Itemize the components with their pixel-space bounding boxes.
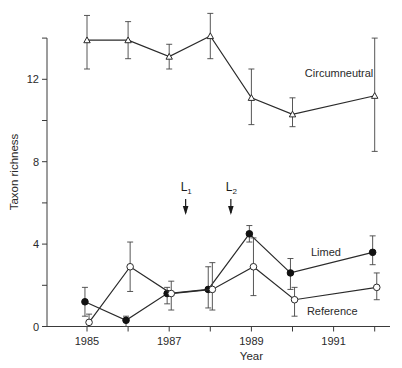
open-circle-marker: [168, 290, 175, 297]
y-tick-label: 4: [33, 238, 39, 250]
series-label-reference: Reference: [307, 305, 358, 317]
series-layer: CircumneutralLimedReference: [82, 13, 380, 326]
filled-circle-marker: [123, 317, 130, 324]
lime-arrow-1: L1: [181, 180, 193, 215]
filled-circle-marker: [287, 270, 294, 277]
down-arrow-icon: [228, 206, 234, 215]
chart-container: 048121985198719891991 CircumneutralLimed…: [0, 0, 402, 368]
down-arrow-icon: [183, 206, 189, 215]
x-tick-label: 1987: [157, 335, 181, 347]
x-tick-label: 1991: [321, 335, 345, 347]
x-tick-label: 1989: [239, 335, 263, 347]
line-chart: 048121985198719891991 CircumneutralLimed…: [0, 0, 402, 368]
x-tick-label: 1985: [75, 335, 99, 347]
y-axis-title: Taxon richness: [8, 133, 20, 210]
lime-arrow-2: L2: [226, 180, 238, 215]
filled-circle-marker: [246, 231, 253, 238]
series-label-limed: Limed: [311, 246, 341, 258]
arrow-label-subscript: 2: [233, 187, 238, 196]
annotation-layer: L1L2: [181, 180, 238, 215]
x-axis-title: Year: [240, 350, 263, 362]
filled-circle-marker: [82, 298, 89, 305]
open-circle-marker: [209, 286, 216, 293]
arrow-label-subscript: 1: [187, 187, 192, 196]
triangle-marker: [207, 33, 213, 39]
open-circle-marker: [127, 263, 134, 270]
arrow-label: L2: [226, 180, 238, 196]
series-label-circumneutral: Circumneutral: [305, 67, 373, 79]
open-circle-marker: [291, 296, 298, 303]
triangle-marker: [372, 93, 378, 99]
arrow-label: L1: [181, 180, 193, 196]
series-circumneutral: Circumneutral: [84, 13, 378, 151]
open-circle-marker: [373, 284, 380, 291]
open-circle-marker: [250, 263, 257, 270]
open-circle-marker: [86, 319, 93, 326]
filled-circle-marker: [369, 249, 376, 256]
y-tick-label: 8: [33, 156, 39, 168]
y-tick-label: 0: [33, 321, 39, 333]
y-tick-label: 12: [27, 73, 39, 85]
